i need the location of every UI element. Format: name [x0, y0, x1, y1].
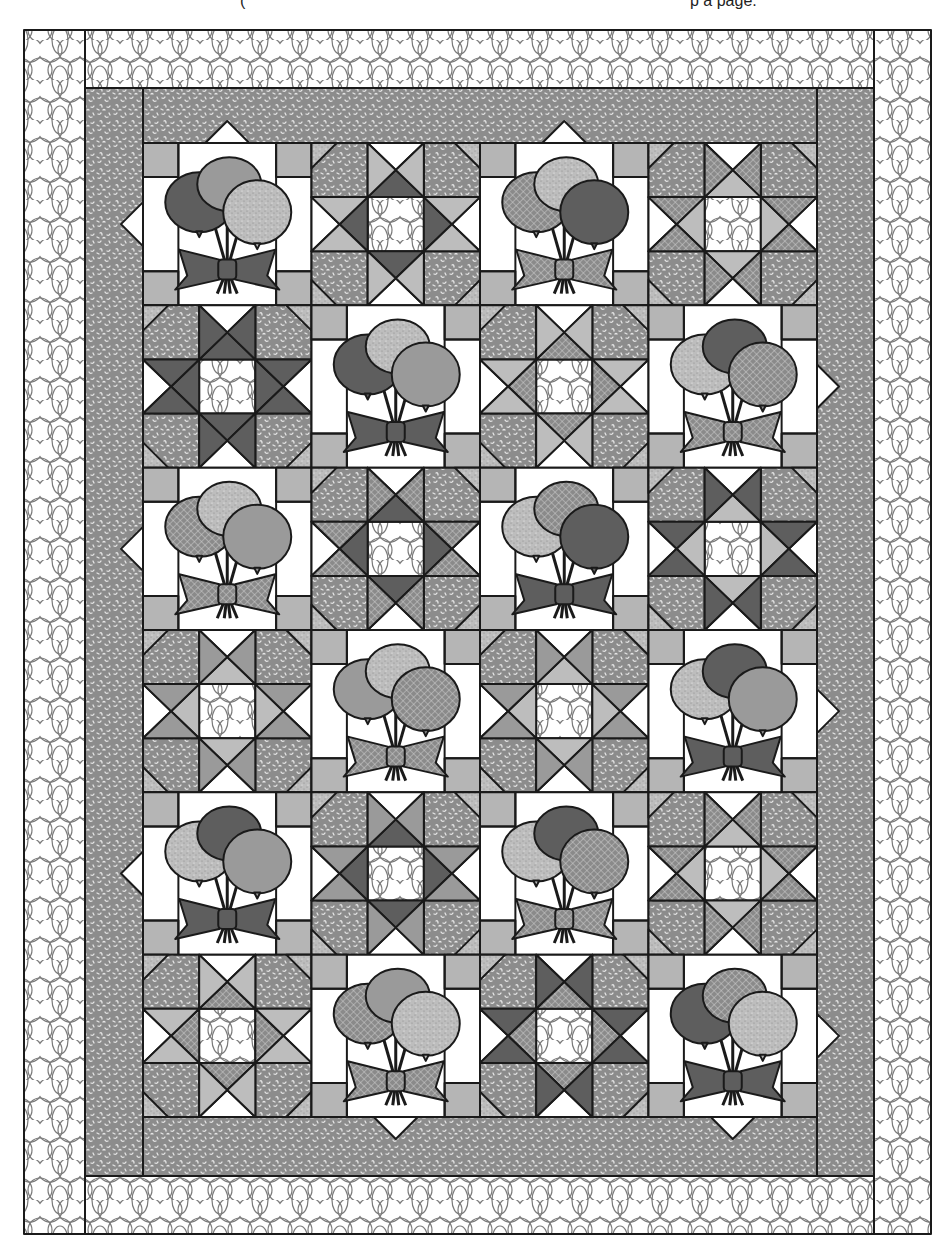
balloon-shape: [729, 992, 797, 1056]
balloon-block: [480, 792, 649, 954]
balloon-block: [312, 305, 481, 467]
star-block: [649, 468, 818, 630]
star-block: [143, 630, 312, 792]
balloon-shape: [560, 505, 628, 569]
balloon-block: [143, 468, 312, 630]
balloon-shape: [729, 343, 797, 407]
balloon-block: [649, 955, 818, 1117]
balloon-shape: [392, 992, 460, 1056]
star-block: [480, 955, 649, 1117]
balloon-shape: [729, 667, 797, 731]
balloon-block: [480, 468, 649, 630]
balloon-shape: [223, 830, 291, 894]
star-block: [480, 305, 649, 467]
balloon-shape: [392, 667, 460, 731]
balloon-shape: [560, 830, 628, 894]
balloon-shape: [223, 180, 291, 244]
star-block: [143, 305, 312, 467]
star-block: [649, 143, 818, 305]
quilt-blocks: [121, 121, 839, 1139]
balloon-block: [480, 143, 649, 305]
balloon-block: [649, 305, 818, 467]
balloon-block: [143, 143, 312, 305]
star-block: [649, 792, 818, 954]
balloon-block: [649, 630, 818, 792]
balloon-shape: [560, 180, 628, 244]
balloon-block: [143, 792, 312, 954]
balloon-shape: [392, 343, 460, 407]
star-block: [312, 468, 481, 630]
balloon-block: [312, 955, 481, 1117]
balloon-shape: [223, 505, 291, 569]
quilt-diagram: [0, 0, 952, 1258]
balloon-block: [312, 630, 481, 792]
star-block: [143, 955, 312, 1117]
star-block: [312, 792, 481, 954]
star-block: [480, 630, 649, 792]
star-block: [312, 143, 481, 305]
